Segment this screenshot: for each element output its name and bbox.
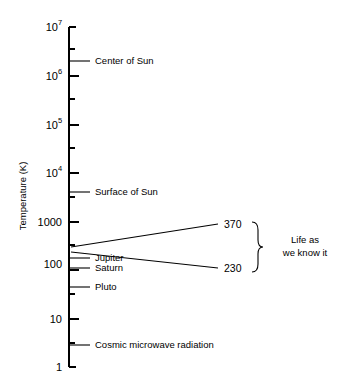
y-tick-label-1000: 1000 [38, 216, 62, 228]
svg-text:10: 10 [46, 119, 58, 131]
svg-text:6: 6 [58, 67, 62, 76]
y-tick-label-1e7: 10 7 [46, 18, 62, 33]
annotation-line-1: Life as [291, 234, 319, 245]
y-tick-label-1e6: 10 6 [46, 67, 62, 82]
svg-text:10: 10 [46, 70, 58, 82]
svg-text:10: 10 [46, 167, 58, 179]
annotation-line-2: we know it [282, 247, 328, 258]
range-value-label-370: 370 [224, 218, 242, 230]
svg-text:5: 5 [58, 116, 62, 125]
y-tick-label-1e5: 10 5 [46, 116, 62, 131]
range-line-upper [71, 224, 218, 247]
svg-text:4: 4 [58, 164, 62, 173]
marker-label-saturn: Saturn [95, 262, 123, 273]
life-range-brace [252, 222, 263, 272]
y-tick-label-1: 1 [56, 361, 62, 373]
y-tick-label-1e4: 10 4 [46, 164, 62, 179]
y-tick-label-10: 10 [50, 313, 62, 325]
svg-text:10: 10 [46, 21, 58, 33]
y-axis-title: Temperature (K) [17, 162, 28, 231]
svg-text:7: 7 [58, 18, 62, 27]
range-line-lower [71, 252, 218, 268]
temperature-scale-figure: 10 7 10 6 10 5 10 4 1000 100 10 1 Temper… [0, 0, 351, 391]
marker-label-surface-of-sun: Surface of Sun [95, 186, 158, 197]
marker-label-pluto: Pluto [95, 281, 117, 292]
y-tick-label-100: 100 [44, 258, 62, 270]
range-value-label-230: 230 [224, 262, 242, 274]
marker-label-cosmic-microwave-radiation: Cosmic microwave radiation [95, 339, 214, 350]
marker-label-center-of-sun: Center of Sun [95, 55, 154, 66]
